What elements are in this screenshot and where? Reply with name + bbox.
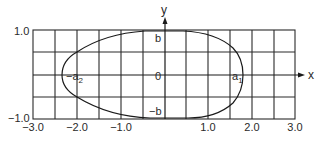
diagram-figure: y x 1.0 −1.0 −3.0 −2.0 −1.0 1.0 2.0 3.0 … [0,0,317,143]
y-tick-label: 1.0 [14,25,29,37]
right-intercept-label: a1 [232,70,243,85]
x-tick-label: 2.0 [244,121,259,133]
left-intercept-label: −a2 [66,70,84,85]
y-axis-label: y [161,3,167,17]
x-axis-arrow-icon [298,73,305,78]
x-tick-label: −1.0 [110,121,132,133]
y-axis-arrow-icon [163,17,168,24]
x-tick-label: −3.0 [22,121,44,133]
x-axis-label: x [308,68,314,82]
x-tick-label: 3.0 [287,121,302,133]
x-tick-label: 1.0 [200,121,215,133]
bottom-intercept-label: −b [149,105,162,117]
x-tick-label: −2.0 [66,121,88,133]
top-intercept-label: b [155,32,161,44]
origin-label: 0 [155,70,161,82]
